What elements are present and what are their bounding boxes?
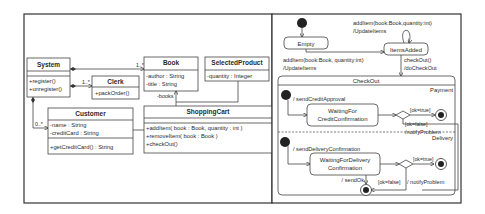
multiplicity-label: 0..*	[35, 121, 43, 127]
state-name: ItemsAdded	[390, 47, 422, 53]
transition-label: addItem(book:Book,quantity:int)	[353, 20, 432, 26]
class-book[interactable]: Book -author : String -title : String	[144, 57, 198, 91]
class-name: ShoppingCart	[187, 108, 231, 116]
transition-label: / sendCreditApproval	[293, 96, 345, 102]
state-name: WaitingForDelivery	[320, 157, 370, 163]
transition-label: / sendDeliveryConfirmation	[293, 146, 360, 152]
class-shopping-cart[interactable]: ShoppingCart +addItem( book : Book, quan…	[144, 106, 272, 153]
class-name: Book	[163, 59, 180, 66]
initial-state-icon	[281, 90, 291, 100]
state-machine-panel: Empty ItemsAdded addItem(book:Book, quan…	[272, 14, 461, 203]
transition-label: / sendOk	[342, 177, 365, 183]
transition-label: checkOut()	[404, 57, 431, 63]
state-waiting-for-delivery-confirmation[interactable]: WaitingForDelivery Confirmation	[310, 153, 380, 175]
state-name: Empty	[297, 41, 314, 47]
method: +addItem( book : Book, quantity : int )	[146, 125, 243, 131]
state-empty[interactable]: Empty	[284, 37, 328, 49]
class-name: SelectedProduct	[211, 59, 263, 66]
guard-label: [ok=false]	[405, 121, 428, 127]
attribute: -author : String	[146, 73, 184, 79]
guard-label: [ok=true]	[413, 156, 434, 162]
transition-label: /UpdateItems	[283, 65, 316, 71]
class-system[interactable]: System +register() +unregister()	[27, 58, 70, 97]
state-items-added[interactable]: ItemsAdded	[384, 43, 428, 55]
method: +packOrder()	[95, 90, 129, 96]
region-name: Delivery	[432, 135, 453, 141]
attribute: -quantity : Integer	[207, 73, 252, 79]
method: +register()	[29, 78, 56, 84]
class-diagram-panel: System +register() +unregister() Clerk +…	[24, 14, 272, 203]
transition-label: / notifyProblem	[407, 179, 445, 185]
transition-label: /UpdateItems	[353, 28, 386, 34]
composite-state-checkout[interactable]: CheckOut	[278, 76, 455, 195]
state-name: Confirmation	[328, 165, 362, 171]
state-waiting-for-credit-confirmation[interactable]: WaitingFor CreditConfirmation	[307, 104, 378, 126]
method: +unregister()	[29, 86, 62, 92]
multiplicity-label: 1..*	[82, 79, 90, 85]
attribute: -creditCard : String	[50, 130, 99, 136]
uml-figure: System +register() +unregister() Clerk +…	[0, 0, 485, 214]
method: +checkOut()	[146, 141, 178, 147]
guard-label: [ok=false]	[378, 179, 401, 185]
multiplicity-label: 1..*	[136, 62, 144, 68]
class-clerk[interactable]: Clerk +packOrder()	[92, 76, 139, 99]
attribute: -title : String	[146, 81, 177, 87]
class-name: System	[37, 61, 60, 69]
attribute: -name : String	[50, 122, 86, 128]
class-name: Customer	[75, 110, 106, 117]
state-name: CreditConfirmation	[317, 116, 367, 122]
class-selected-product[interactable]: SelectedProduct -quantity : Integer	[205, 57, 269, 81]
method: +getCreditCard() : String	[50, 144, 113, 150]
class-customer[interactable]: Customer -name : String -creditCard : St…	[48, 108, 133, 154]
initial-state-icon	[280, 137, 290, 147]
method: +removeItem( book : Book )	[146, 133, 218, 139]
composite-name: CheckOut	[353, 78, 380, 84]
state-name: WaitingFor	[328, 108, 357, 114]
initial-state-icon	[297, 18, 307, 28]
role-label: -books	[157, 93, 174, 99]
transition-label: addItem(book:Book, quantity:int)	[283, 57, 364, 63]
transition-label: /doCheckOut	[404, 65, 437, 71]
class-name: Clerk	[107, 78, 124, 85]
region-name: Payment	[430, 87, 453, 93]
guard-label: [ok=true]	[410, 107, 431, 113]
